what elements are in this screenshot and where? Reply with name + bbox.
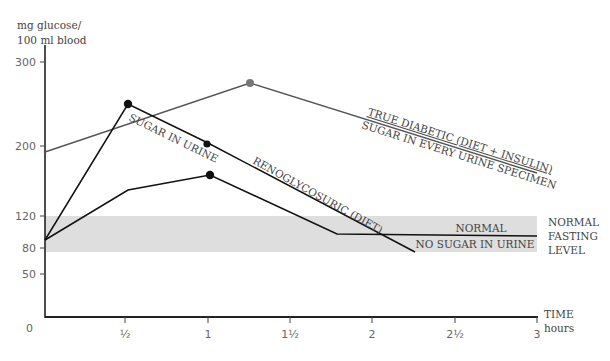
x-tick-label: ½ xyxy=(120,328,131,341)
side-label-line2: FASTING xyxy=(548,230,598,242)
y-tick-label: 300 xyxy=(15,56,36,69)
y-tick-label: 80 xyxy=(22,242,36,255)
glucose-tolerance-chart: 300 200 120 80 50 0 ½ 1 1½ 2 2½ 3 mg glu… xyxy=(0,0,610,361)
side-label-line3: LEVEL xyxy=(548,244,585,256)
y-tick-label: 120 xyxy=(15,210,36,223)
series-renoglycosuric-marker xyxy=(206,171,214,179)
band-label-no-sugar: NO SUGAR IN URINE xyxy=(416,238,535,250)
x-tick-label: 3 xyxy=(534,328,541,341)
y-tick-label: 200 xyxy=(15,140,36,153)
x-tick-label: 1½ xyxy=(281,328,299,341)
x-axis-title-line2: hours xyxy=(544,322,574,334)
side-label-line1: NORMAL xyxy=(548,216,599,228)
y-tick-label: 0 xyxy=(26,322,33,335)
x-tick-label: 1 xyxy=(205,328,212,341)
series-true-diabetic-marker xyxy=(246,79,254,87)
band-label-normal: NORMAL xyxy=(455,222,506,234)
y-axis-title-line2: 100 ml blood xyxy=(17,34,87,46)
x-axis-title-line1: TIME xyxy=(544,308,574,320)
series-sugar-in-urine-marker xyxy=(124,100,132,108)
y-axis-title-line1: mg glucose/ xyxy=(17,19,82,31)
y-tick-label: 50 xyxy=(22,268,36,281)
label-sugar-in-urine: SUGAR IN URINE xyxy=(127,111,220,165)
x-tick-label: 2 xyxy=(369,328,376,341)
x-tick-label: 2½ xyxy=(446,328,464,341)
